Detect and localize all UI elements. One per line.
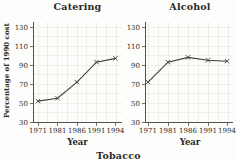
axes: [33, 22, 122, 123]
x-tick-label: 1994: [218, 127, 236, 135]
line-graphs-figure: Catering Percentage of 1990 cost 3050709…: [0, 0, 237, 160]
y-tick-label: 50: [19, 100, 28, 108]
x-tick-label: 1991: [199, 127, 217, 135]
alcohol-chart: Alcohol 30507090110130197119811986199119…: [125, 0, 237, 160]
y-tick-label: 30: [131, 119, 140, 127]
alcohol-x-axis-label: Year: [145, 137, 235, 147]
alcohol-plot-area: 3050709011013019711981198619911994: [125, 0, 237, 160]
y-tick-label: 90: [19, 62, 28, 70]
gridlines: [33, 22, 122, 122]
x-tick-label: 1986: [68, 127, 86, 135]
y-tick-label: 110: [15, 43, 28, 51]
tick-marks: [30, 27, 116, 126]
y-tick-label: 130: [15, 24, 28, 32]
x-tick-label: 1981: [159, 127, 177, 135]
tick-labels: 3050709011013019711981198619911994: [15, 24, 125, 136]
x-tick-label: 1981: [49, 127, 67, 135]
y-tick-label: 50: [131, 100, 140, 108]
data-markers: [146, 55, 229, 84]
x-tick-label: 1986: [179, 127, 197, 135]
y-tick-label: 110: [127, 43, 140, 51]
x-tick-label: 1991: [88, 127, 106, 135]
tick-labels: 3050709011013019711981198619911994: [127, 24, 237, 136]
y-tick-label: 30: [19, 119, 28, 127]
tobacco-chart-title-partial: Tobacco: [0, 150, 237, 160]
x-tick-label: 1994: [107, 127, 125, 135]
catering-x-axis-label: Year: [33, 137, 122, 147]
tick-marks: [142, 27, 227, 126]
y-tick-label: 70: [131, 81, 140, 89]
x-tick-label: 1971: [139, 127, 157, 135]
x-tick-label: 1971: [29, 127, 47, 135]
y-tick-label: 130: [127, 24, 140, 32]
catering-chart: Catering Percentage of 1990 cost 3050709…: [0, 0, 125, 160]
catering-plot-area: 3050709011013019711981198619911994: [0, 0, 125, 160]
y-tick-label: 90: [131, 62, 140, 70]
series-line: [148, 57, 227, 82]
y-tick-label: 70: [19, 81, 28, 89]
